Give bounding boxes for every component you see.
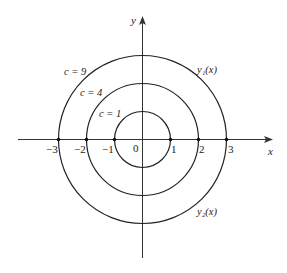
figure-canvas: y x 0 −3 −2 −1 1 2 3 c = 9 c = 4 c = 1 y…	[0, 0, 287, 273]
label-c4: c = 4	[80, 87, 103, 98]
tick-pos2: 2	[199, 143, 205, 155]
point-neg2	[85, 138, 89, 142]
point-pos3	[225, 138, 229, 142]
y-axis-label: y	[130, 14, 136, 26]
point-neg3	[57, 138, 61, 142]
level-curves-figure: y x 0 −3 −2 −1 1 2 3 c = 9 c = 4 c = 1 y…	[0, 0, 287, 273]
tick-neg2: −2	[74, 143, 86, 155]
point-pos2	[197, 138, 201, 142]
tick-neg3: −3	[46, 143, 58, 155]
tick-neg1: −1	[102, 143, 114, 155]
tick-pos3: 3	[228, 143, 234, 155]
point-neg1	[113, 138, 117, 142]
label-y1: y₁(x)	[196, 64, 217, 76]
label-c1: c = 1	[99, 108, 121, 119]
x-axis-label: x	[267, 145, 273, 157]
label-y2: y₂(x)	[196, 206, 217, 218]
point-pos1	[169, 138, 173, 142]
origin-label: 0	[133, 142, 139, 154]
tick-pos1: 1	[171, 143, 177, 155]
label-c9: c = 9	[64, 66, 87, 77]
